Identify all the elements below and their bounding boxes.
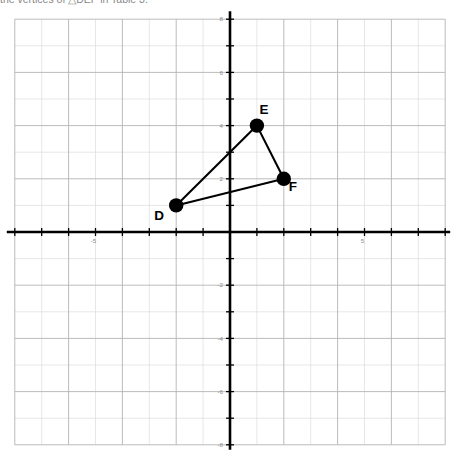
y-tick-label: -8: [217, 441, 223, 448]
vertex-point-e[interactable]: [250, 118, 264, 132]
x-tick-label: 5: [361, 237, 365, 244]
coordinate-plane-svg: -558642-2-4-6-8 DEF: [0, 0, 452, 461]
vertex-label-f: F: [289, 179, 297, 194]
vertex-label-d: D: [154, 208, 164, 223]
vertex-label-e: E: [259, 102, 268, 117]
y-tick-label: 8: [220, 15, 224, 22]
y-tick-label: -2: [217, 281, 223, 288]
triangle-edge-de: [176, 126, 257, 206]
coordinate-graph: -558642-2-4-6-8 DEF: [0, 0, 452, 461]
x-tick-label: -5: [91, 237, 97, 244]
y-tick-label: 4: [220, 122, 224, 129]
y-tick-label: -6: [217, 388, 223, 395]
y-tick-label: 2: [220, 175, 224, 182]
vertex-point-d[interactable]: [169, 198, 183, 212]
y-tick-label: 6: [220, 69, 224, 76]
y-tick-label: -4: [217, 335, 223, 342]
axes: [7, 11, 450, 450]
